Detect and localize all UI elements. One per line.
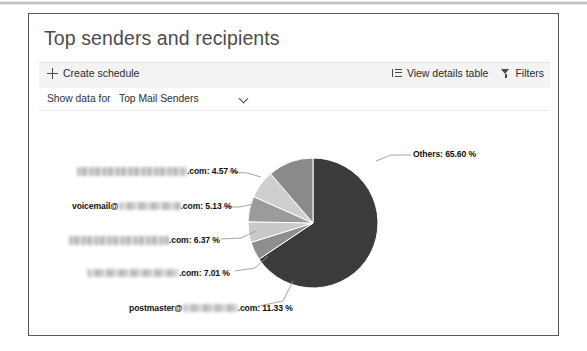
show-data-for-dropdown[interactable]: Top Mail Senders bbox=[119, 93, 199, 104]
filters-label: Filters bbox=[515, 67, 544, 79]
pie-label-row4-text: .com: 7.01 % bbox=[179, 268, 230, 278]
command-bar-right: View details table Filters bbox=[392, 67, 544, 79]
filters-button[interactable]: Filters bbox=[501, 67, 544, 79]
pie-chart-svg bbox=[39, 111, 550, 326]
create-schedule-button[interactable]: Create schedule bbox=[47, 67, 139, 79]
pie-label-row1-text: .com: 4.57 % bbox=[187, 166, 238, 176]
create-schedule-label: Create schedule bbox=[63, 67, 139, 79]
pie-label-row2-text: .com: 5.13 % bbox=[181, 201, 232, 211]
chevron-down-icon[interactable] bbox=[239, 95, 250, 102]
command-bar: Create schedule View details table Filte… bbox=[39, 62, 550, 89]
pie-label-row4: .com: 7.01 % bbox=[87, 268, 230, 278]
pie-label-others: Others: 65.60 % bbox=[413, 149, 476, 159]
page-title: Top senders and recipients bbox=[44, 27, 280, 50]
pie-chart-area: Others: 65.60 % .com: 4.57 % voicemail@.… bbox=[39, 111, 550, 326]
list-icon bbox=[392, 69, 402, 78]
card-inner: Top senders and recipients Create schedu… bbox=[29, 14, 558, 335]
pie-label-row1: .com: 4.57 % bbox=[77, 166, 238, 176]
screenshot-root: Top senders and recipients Create schedu… bbox=[0, 0, 587, 351]
view-details-table-button[interactable]: View details table bbox=[392, 67, 489, 79]
leader-line-others bbox=[376, 155, 411, 161]
top-senders-recipients-card: Top senders and recipients Create schedu… bbox=[28, 13, 559, 336]
pie-label-row3-text: .com: 6.37 % bbox=[169, 235, 220, 245]
pie-label-others-text: Others: 65.60 % bbox=[413, 149, 476, 159]
redacted-sender-1 bbox=[77, 167, 187, 176]
pie-label-row2: voicemail@.com: 5.13 % bbox=[72, 201, 231, 211]
show-data-for-label: Show data for bbox=[47, 93, 111, 104]
pie-label-row5-prefix: postmaster@ bbox=[129, 303, 183, 313]
plus-icon bbox=[47, 68, 58, 79]
funnel-icon bbox=[501, 69, 510, 78]
pie-label-row5: postmaster@.com: 11.33 % bbox=[129, 303, 293, 313]
redacted-sender-4 bbox=[87, 269, 179, 277]
command-bar-left: Create schedule bbox=[47, 67, 139, 79]
pie-label-row2-prefix: voicemail@ bbox=[72, 201, 119, 211]
pie-slices bbox=[248, 158, 378, 288]
redacted-sender-5 bbox=[183, 304, 238, 312]
show-data-for-row: Show data for Top Mail Senders bbox=[39, 88, 550, 111]
page-background-gap bbox=[0, 5, 587, 12]
redacted-sender-3 bbox=[69, 236, 169, 245]
pie-label-row3: .com: 6.37 % bbox=[69, 235, 220, 245]
pie-label-row5-text: .com: 11.33 % bbox=[238, 303, 293, 313]
view-details-table-label: View details table bbox=[407, 67, 489, 79]
redacted-sender-2 bbox=[119, 202, 181, 210]
